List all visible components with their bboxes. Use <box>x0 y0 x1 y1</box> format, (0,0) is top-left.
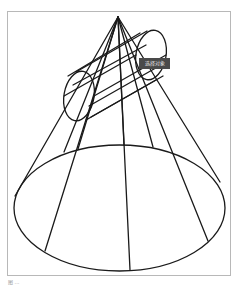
figure-caption: 图 ... <box>8 278 19 285</box>
object-tooltip: 选择对象 <box>139 58 170 69</box>
wireframe-drawing[interactable] <box>0 0 241 285</box>
cone-base-ellipse[interactable] <box>14 145 225 271</box>
cone-generator-lines[interactable] <box>15 17 220 270</box>
